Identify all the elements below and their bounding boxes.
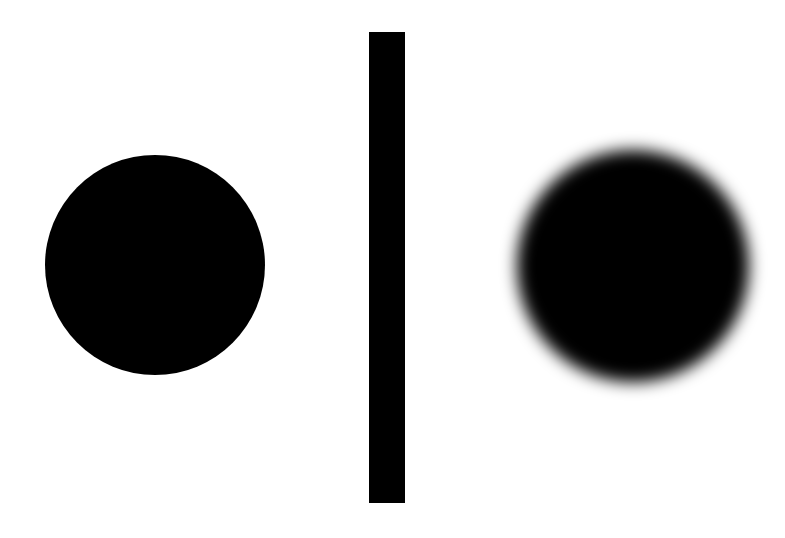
blurred-disc-shape	[517, 150, 749, 382]
figure-canvas	[0, 0, 785, 538]
vertical-divider-bar	[369, 32, 405, 503]
sharp-disc-shape	[45, 155, 265, 375]
